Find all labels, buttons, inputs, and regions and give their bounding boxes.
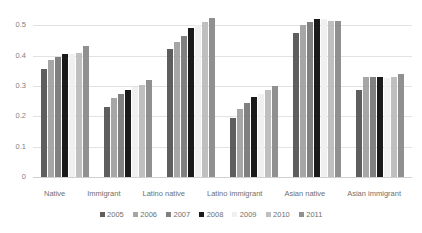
bar: [307, 22, 313, 177]
y-axis-tick: 0.3: [16, 82, 26, 90]
bar: [293, 33, 299, 177]
bar: [230, 118, 236, 177]
bar: [111, 98, 117, 177]
legend-swatch-icon: [100, 212, 105, 217]
bar: [370, 77, 376, 177]
legend-swatch-icon: [299, 212, 304, 217]
bar-groups: [33, 10, 412, 187]
legend-swatch-icon: [166, 212, 171, 217]
bar: [202, 22, 208, 177]
legend-label: 2011: [306, 211, 322, 219]
y-axis-tick: 0.1: [16, 143, 26, 151]
bar: [258, 94, 264, 178]
bar: [83, 46, 89, 177]
bar: [321, 19, 327, 177]
y-axis: 00.10.20.30.40.5: [0, 10, 30, 187]
x-axis-label: Latino immigrant: [207, 190, 262, 198]
legend-item[interactable]: 2009: [232, 211, 256, 219]
legend-label: 2005: [107, 211, 124, 219]
legend-item[interactable]: 2008: [199, 211, 223, 219]
legend-item[interactable]: 2005: [100, 211, 124, 219]
x-axis-label: Immigrant: [87, 190, 120, 198]
bar-group: [41, 10, 89, 187]
bar: [146, 80, 152, 177]
bar: [391, 77, 397, 177]
legend-item[interactable]: 2010: [266, 211, 290, 219]
bar: [188, 28, 194, 177]
legend-label: 2009: [240, 211, 257, 219]
bar: [363, 77, 369, 177]
bar: [300, 25, 306, 177]
x-axis-label: Latino native: [142, 190, 185, 198]
bar: [76, 53, 82, 177]
legend-swatch-icon: [266, 212, 271, 217]
bar: [118, 94, 124, 177]
legend-label: 2010: [273, 211, 290, 219]
legend-label: 2007: [173, 211, 190, 219]
bar: [272, 86, 278, 177]
bar: [398, 74, 404, 177]
y-axis-tick: 0.5: [16, 21, 26, 29]
y-axis-tick: 0.2: [16, 113, 26, 121]
bar-group: [104, 10, 152, 187]
bar: [244, 103, 250, 177]
bar: [139, 85, 145, 177]
bar: [251, 97, 257, 177]
bar: [104, 107, 110, 177]
bar: [237, 109, 243, 177]
bar-group: [230, 10, 278, 187]
bar: [377, 77, 383, 177]
bar: [265, 90, 271, 177]
legend-swatch-icon: [232, 212, 237, 217]
x-axis: NativeImmigrantLatino nativeLatino immig…: [33, 190, 412, 198]
bar: [384, 78, 390, 177]
legend-swatch-icon: [199, 212, 204, 217]
bar-chart: 00.10.20.30.40.5 NativeImmigrantLatino n…: [0, 0, 422, 233]
bar: [41, 69, 47, 177]
bar: [55, 57, 61, 177]
bar: [181, 36, 187, 177]
bar: [62, 54, 68, 177]
bar: [328, 21, 334, 177]
bar: [195, 25, 201, 177]
legend-item[interactable]: 2006: [133, 211, 157, 219]
plot-area: [33, 10, 412, 187]
x-axis-label: Asian native: [284, 190, 325, 198]
bar-group: [356, 10, 404, 187]
legend-swatch-icon: [133, 212, 138, 217]
legend-label: 2008: [207, 211, 224, 219]
bar: [69, 54, 75, 177]
bar-group: [293, 10, 341, 187]
legend-label: 2006: [140, 211, 157, 219]
bar: [209, 18, 215, 177]
bar: [335, 21, 341, 177]
y-axis-tick: 0: [22, 173, 26, 181]
legend-item[interactable]: 2011: [299, 211, 323, 219]
bar: [314, 19, 320, 177]
bar: [48, 60, 54, 177]
bar: [174, 42, 180, 177]
bar: [167, 49, 173, 177]
y-axis-tick: 0.4: [16, 52, 26, 60]
legend: 2005200620072008200920102011: [0, 211, 422, 219]
bar: [125, 90, 131, 177]
bar: [356, 90, 362, 177]
x-axis-label: Asian immigrant: [347, 190, 401, 198]
bar: [132, 87, 138, 177]
legend-item[interactable]: 2007: [166, 211, 190, 219]
bar-group: [167, 10, 215, 187]
x-axis-label: Native: [44, 190, 65, 198]
